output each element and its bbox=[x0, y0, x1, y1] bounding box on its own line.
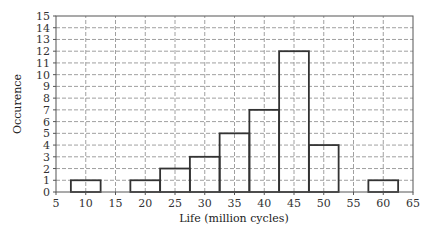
x-tick-label: 25 bbox=[168, 197, 182, 210]
y-tick-label: 6 bbox=[43, 116, 50, 129]
histogram-bar bbox=[279, 51, 309, 192]
y-tick-label: 2 bbox=[43, 163, 50, 176]
x-tick-labels: 5101520253035404550556065 bbox=[53, 197, 421, 210]
histogram-bar bbox=[220, 133, 250, 192]
y-tick-label: 4 bbox=[43, 139, 50, 152]
x-tick-label: 20 bbox=[138, 197, 152, 210]
x-tick-label: 65 bbox=[406, 197, 420, 210]
x-tick-label: 50 bbox=[317, 197, 331, 210]
histogram-bar bbox=[368, 180, 398, 192]
histogram-bar bbox=[71, 180, 101, 192]
x-tick-label: 55 bbox=[347, 197, 361, 210]
y-tick-label: 0 bbox=[43, 186, 50, 199]
x-tick-label: 40 bbox=[257, 197, 271, 210]
y-tick-label: 7 bbox=[43, 104, 50, 117]
y-tick-label: 1 bbox=[43, 174, 50, 187]
x-tick-label: 30 bbox=[198, 197, 212, 210]
y-tick-label: 14 bbox=[36, 22, 50, 35]
y-tick-label: 5 bbox=[43, 127, 50, 140]
histogram-bar bbox=[309, 145, 339, 192]
y-tick-label: 13 bbox=[36, 33, 50, 46]
histogram-bar bbox=[190, 157, 220, 192]
histogram-bar bbox=[160, 169, 190, 192]
histogram-bar bbox=[249, 110, 279, 192]
x-tick-label: 15 bbox=[109, 197, 123, 210]
y-tick-label: 11 bbox=[36, 57, 50, 70]
x-tick-label: 35 bbox=[228, 197, 242, 210]
y-tick-label: 10 bbox=[36, 69, 50, 82]
x-tick-label: 10 bbox=[79, 197, 93, 210]
histogram-bar bbox=[130, 180, 160, 192]
y-tick-label: 12 bbox=[36, 45, 50, 58]
y-tick-label: 3 bbox=[43, 151, 50, 164]
x-tick-label: 45 bbox=[287, 197, 301, 210]
y-tick-labels: 0123456789101112131415 bbox=[36, 10, 50, 199]
y-tick-label: 15 bbox=[36, 10, 50, 23]
histogram-chart: 0123456789101112131415 51015202530354045… bbox=[0, 0, 441, 235]
x-axis-label: Life (million cycles) bbox=[179, 212, 288, 225]
y-tick-label: 9 bbox=[43, 80, 50, 93]
x-tick-label: 5 bbox=[53, 197, 60, 210]
y-tick-label: 8 bbox=[43, 92, 50, 105]
x-tick-label: 60 bbox=[376, 197, 390, 210]
y-axis-label: Occurence bbox=[11, 74, 24, 134]
